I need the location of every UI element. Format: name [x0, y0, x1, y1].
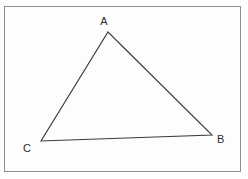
vertex-label-b: B: [217, 133, 224, 145]
vertex-label-c: C: [23, 142, 31, 154]
figure-canvas: A B C: [0, 0, 248, 179]
vertex-label-a: A: [100, 15, 108, 27]
triangle-shape: [41, 32, 212, 141]
figure-border: [5, 7, 241, 172]
triangle-diagram-svg: A B C: [0, 0, 248, 179]
